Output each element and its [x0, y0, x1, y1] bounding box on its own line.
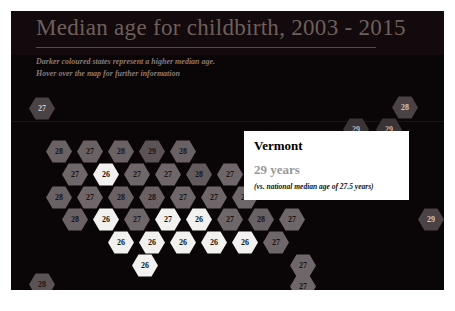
chart-page: Median age for childbirth, 2003 - 2015 D… — [0, 0, 455, 311]
hex-tile-value: 26 — [195, 216, 203, 224]
hex-tile[interactable]: 28 — [108, 140, 134, 163]
hex-tile-value: 27 — [179, 194, 187, 202]
hex-tile-value: 27 — [164, 171, 172, 179]
tooltip-state-name: Vermont — [254, 138, 303, 154]
hex-tile[interactable]: 27 — [290, 275, 316, 290]
hex-tile-value: 28 — [257, 216, 265, 224]
hex-tile[interactable]: 26 — [93, 163, 119, 186]
hex-tile-value: 26 — [102, 171, 110, 179]
hex-tile-value: 27 — [86, 148, 94, 156]
hex-tile-value: 26 — [117, 239, 125, 247]
hex-tile-value: 27 — [133, 216, 141, 224]
hex-tile[interactable]: 28 — [392, 96, 418, 119]
hex-tile-value: 27 — [226, 171, 234, 179]
hex-tile-value: 27 — [38, 105, 46, 113]
hex-tile[interactable]: 28 — [170, 140, 196, 163]
hex-tile[interactable]: 28 — [62, 208, 88, 231]
hex-tile-value: 26 — [148, 239, 156, 247]
hex-tile-value: 28 — [401, 104, 409, 112]
hex-tile-value: 27 — [86, 194, 94, 202]
hex-tile[interactable]: 26 — [186, 208, 212, 231]
hex-tile[interactable]: 26 — [232, 231, 258, 254]
hex-tile-value: 27 — [210, 194, 218, 202]
hex-tile[interactable]: 27 — [170, 186, 196, 209]
hex-tile-value: 26 — [210, 239, 218, 247]
hex-tile[interactable]: 27 — [263, 231, 289, 254]
hex-tile[interactable]: 27 — [29, 97, 55, 120]
hex-tile-value: 28 — [55, 148, 63, 156]
hex-tile[interactable]: 27 — [124, 208, 150, 231]
hex-tile-value: 28 — [38, 281, 46, 289]
hex-tile-value: 28 — [179, 148, 187, 156]
hex-tile-value: 27 — [164, 216, 172, 224]
hex-tile-value: 26 — [179, 239, 187, 247]
hex-tile[interactable]: 28 — [46, 140, 72, 163]
hex-tile[interactable]: 26 — [139, 231, 165, 254]
hex-tile[interactable]: 28 — [29, 273, 55, 290]
hex-tile-value: 27 — [133, 171, 141, 179]
hex-tile[interactable]: 27 — [155, 163, 181, 186]
tooltip-comparison: (vs. national median age of 27.5 years) — [254, 182, 374, 191]
hex-tile[interactable]: 26 — [170, 231, 196, 254]
hex-tile[interactable]: 29 — [139, 140, 165, 163]
hex-tile-value: 26 — [141, 262, 149, 270]
hex-tile-value: 28 — [195, 171, 203, 179]
hex-tile[interactable]: 28 — [108, 186, 134, 209]
hex-tile-value: 27 — [272, 239, 280, 247]
hex-tile[interactable]: 26 — [93, 208, 119, 231]
hex-tile-value: 26 — [241, 239, 249, 247]
hex-tile[interactable]: 29 — [418, 208, 444, 231]
hex-tile-value: 27 — [299, 283, 307, 291]
hex-tile-value: 29 — [148, 148, 156, 156]
hex-tile[interactable]: 27 — [217, 163, 243, 186]
hex-tile-value: 28 — [55, 194, 63, 202]
hex-tile[interactable]: 26 — [108, 231, 134, 254]
hex-tile-value: 29 — [427, 216, 435, 224]
hex-tile[interactable]: 27 — [217, 208, 243, 231]
chart-panel: Median age for childbirth, 2003 - 2015 D… — [11, 11, 444, 290]
hex-tile-value: 28 — [148, 194, 156, 202]
hex-tile-value: 26 — [102, 216, 110, 224]
hex-tile[interactable]: 27 — [201, 186, 227, 209]
hex-tile-value: 28 — [71, 216, 79, 224]
hex-tile[interactable]: 27 — [279, 208, 305, 231]
hex-tile[interactable]: 28 — [248, 208, 274, 231]
hex-tile[interactable]: 28 — [186, 163, 212, 186]
hex-tile[interactable]: 26 — [201, 231, 227, 254]
hex-tile[interactable]: 28 — [139, 186, 165, 209]
hex-tile[interactable]: 27 — [155, 208, 181, 231]
hex-tile[interactable]: 27 — [290, 254, 316, 277]
hex-tile-value: 27 — [299, 262, 307, 270]
hex-tile-value: 27 — [288, 216, 296, 224]
hex-tile-value: 28 — [117, 148, 125, 156]
hex-tile-value: 27 — [71, 171, 79, 179]
hex-tile[interactable]: 28 — [46, 186, 72, 209]
state-tooltip: Vermont 29 years (vs. national median ag… — [244, 131, 409, 200]
tooltip-state-value: 29 years — [254, 162, 300, 178]
hex-tile[interactable]: 27 — [124, 163, 150, 186]
hex-tile[interactable]: 27 — [62, 163, 88, 186]
hex-tile-value: 27 — [226, 216, 234, 224]
hex-tile[interactable]: 26 — [132, 254, 158, 277]
hex-tile[interactable]: 27 — [77, 140, 103, 163]
hex-tile[interactable]: 27 — [77, 186, 103, 209]
hex-tile-value: 28 — [117, 194, 125, 202]
